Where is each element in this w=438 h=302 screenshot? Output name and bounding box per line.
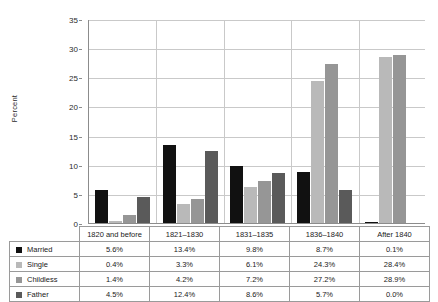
y-axis-tick-5: 5 — [74, 190, 78, 199]
legend-item-single: Single — [10, 257, 80, 272]
y-axis-tick-20: 20 — [69, 103, 78, 112]
plot-region: Percent 05101520253035 — [0, 0, 438, 232]
table-cell: 0.0% — [360, 287, 430, 302]
table-cell: 3.3% — [150, 257, 220, 272]
y-axis-tick-25: 25 — [69, 74, 78, 83]
y-axis-title: Percent — [10, 69, 19, 149]
y-axis-tickmark — [79, 166, 82, 167]
bar — [297, 172, 310, 223]
table-cell: 0.1% — [360, 242, 430, 257]
bar — [244, 187, 257, 223]
bar — [137, 197, 150, 223]
bar-group — [359, 20, 426, 223]
legend-item-father: Father — [10, 287, 80, 302]
y-axis-tickmark — [79, 107, 82, 108]
plot-area — [88, 20, 425, 224]
bar — [258, 181, 271, 223]
bar — [163, 145, 176, 223]
table-cell: 5.7% — [290, 287, 360, 302]
table-body: Married5.6%13.4%9.8%8.7%0.1%Single0.4%3.… — [10, 242, 430, 302]
y-axis-tickmark — [79, 49, 82, 50]
table-cell: 13.4% — [150, 242, 220, 257]
bar — [95, 190, 108, 223]
table-corner-cell — [10, 227, 80, 242]
bar-group — [89, 20, 156, 223]
bar — [272, 173, 285, 223]
bar — [205, 151, 218, 223]
table-cell: 8.6% — [220, 287, 290, 302]
chart-figure: Percent 05101520253035 1820 and before18… — [0, 0, 438, 302]
table-cell: 6.1% — [220, 257, 290, 272]
y-axis-tick-35: 35 — [69, 16, 78, 25]
bar — [311, 81, 324, 223]
table-cell: 4.2% — [150, 272, 220, 287]
table-cell: 8.7% — [290, 242, 360, 257]
bar — [109, 221, 122, 223]
y-axis-tickmark — [79, 137, 82, 138]
table-row: Married5.6%13.4%9.8%8.7%0.1% — [10, 242, 430, 257]
table-cell: 5.6% — [80, 242, 150, 257]
legend-label: Married — [27, 245, 52, 254]
table-column-header: After 1840 — [360, 227, 430, 242]
legend-item-childless: Childless — [10, 272, 80, 287]
legend-item-married: Married — [10, 242, 80, 257]
bar — [230, 166, 243, 223]
bar — [177, 204, 190, 223]
table-column-header: 1831–1835 — [220, 227, 290, 242]
table-cell: 28.9% — [360, 272, 430, 287]
y-axis-tick-30: 30 — [69, 45, 78, 54]
table-cell: 4.5% — [80, 287, 150, 302]
legend-label: Single — [27, 260, 48, 269]
y-axis-tickmark — [79, 195, 82, 196]
y-axis-tickmark — [79, 20, 82, 21]
bar — [325, 64, 338, 223]
bar — [123, 215, 136, 223]
y-axis-tick-labels: 05101520253035 — [50, 20, 82, 224]
legend-swatch-icon — [16, 277, 22, 283]
legend-label: Father — [27, 290, 49, 299]
y-axis-tick-10: 10 — [69, 161, 78, 170]
legend-label: Childless — [27, 275, 57, 284]
legend-swatch-icon — [16, 247, 22, 253]
table-header-row: 1820 and before1821–18301831–18351836–18… — [10, 227, 430, 242]
table-cell: 9.8% — [220, 242, 290, 257]
table-column-header: 1820 and before — [80, 227, 150, 242]
bar — [393, 55, 406, 223]
y-axis-tick-15: 15 — [69, 132, 78, 141]
table-column-header: 1836–1840 — [290, 227, 360, 242]
table-row: Childless1.4%4.2%7.2%27.2%28.9% — [10, 272, 430, 287]
y-axis-tickmark — [79, 224, 82, 225]
bar — [191, 199, 204, 223]
table-row: Father4.5%12.4%8.6%5.7%0.0% — [10, 287, 430, 302]
table-cell: 1.4% — [80, 272, 150, 287]
legend-swatch-icon — [16, 292, 22, 298]
table-row: Single0.4%3.3%6.1%24.3%28.4% — [10, 257, 430, 272]
table-cell: 28.4% — [360, 257, 430, 272]
table-cell: 7.2% — [220, 272, 290, 287]
legend-swatch-icon — [16, 262, 22, 268]
bar-group — [156, 20, 223, 223]
bar — [365, 222, 378, 223]
bar — [339, 190, 352, 223]
y-axis-tickmark — [79, 78, 82, 79]
table-cell: 27.2% — [290, 272, 360, 287]
bar — [379, 57, 392, 223]
table-column-header: 1821–1830 — [150, 227, 220, 242]
table-cell: 12.4% — [150, 287, 220, 302]
table-cell: 0.4% — [80, 257, 150, 272]
bar-group — [224, 20, 291, 223]
data-table: 1820 and before1821–18301831–18351836–18… — [9, 226, 430, 302]
bar-group — [291, 20, 358, 223]
table-cell: 24.3% — [290, 257, 360, 272]
